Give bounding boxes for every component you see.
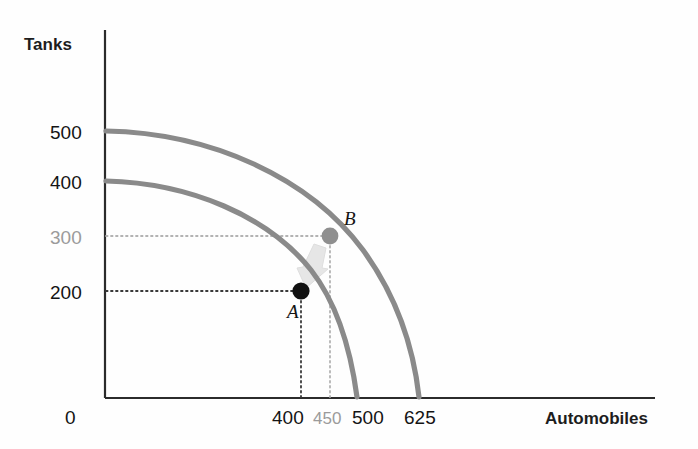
x-tick-label-500: 500 xyxy=(352,407,384,428)
ppf-chart: B A Tanks Automobiles 500 400 300 200 0 … xyxy=(0,0,698,449)
x-tick-label-400: 400 xyxy=(272,407,304,428)
y-tick-label-300: 300 xyxy=(50,227,82,248)
point-a-label: A xyxy=(285,301,299,322)
point-a-marker[interactable] xyxy=(292,282,309,299)
axes-group xyxy=(105,30,655,398)
x-tick-label-0: 0 xyxy=(65,407,76,428)
y-tick-label-500: 500 xyxy=(50,122,82,143)
y-axis-title: Tanks xyxy=(24,35,72,54)
point-b-label: B xyxy=(344,208,356,229)
x-tick-label-625: 625 xyxy=(404,407,436,428)
y-tick-label-400: 400 xyxy=(50,172,82,193)
frontier-curves-group xyxy=(106,131,419,397)
growth-arrow xyxy=(297,244,328,288)
growth-arrow-shape xyxy=(297,244,328,288)
x-axis-title: Automobiles xyxy=(545,409,648,428)
x-tick-label-450: 450 xyxy=(313,409,341,428)
frontier-curve-expanded xyxy=(106,131,419,397)
frontier-curve-original xyxy=(106,181,357,397)
chart-canvas: B A Tanks Automobiles 500 400 300 200 0 … xyxy=(0,0,698,449)
point-b-marker[interactable] xyxy=(322,228,339,245)
y-tick-label-200: 200 xyxy=(50,282,82,303)
